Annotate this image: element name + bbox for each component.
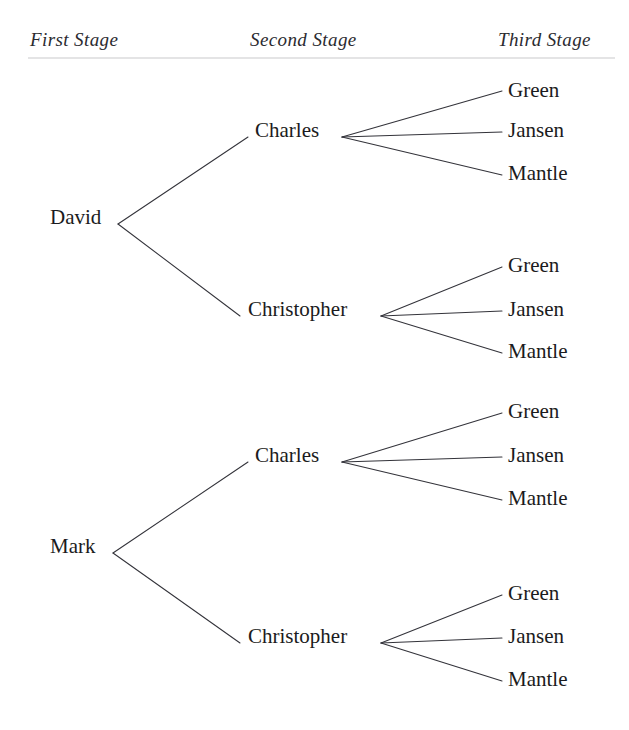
second-stage-node-charles-3: Charles [255,443,319,467]
branch-line [381,595,502,643]
first-stage-nodes: DavidMark [50,205,102,558]
branch-line [381,316,502,353]
stage-header-1: First Stage [29,29,118,50]
branch-line [342,91,502,137]
third-stage-node-green-1: Green [508,78,560,102]
third-stage-node-green-4: Green [508,253,560,277]
branch-line [381,643,502,681]
branch-line [381,638,502,643]
tree-diagram-canvas: First StageSecond StageThird Stage David… [0,0,629,730]
third-stage-node-mantle-6: Mantle [508,339,567,363]
branch-line [118,224,240,316]
third-stage-node-mantle-9: Mantle [508,486,567,510]
branch-line [342,132,502,137]
second-stage-node-christopher-4: Christopher [248,624,347,648]
branch-line [113,553,240,643]
branch-line [381,311,502,316]
third-stage-node-green-7: Green [508,399,560,423]
stage-header-2: Second Stage [250,29,357,50]
stage-headers: First StageSecond StageThird Stage [29,29,591,50]
branch-line [342,457,502,462]
branch-line [381,267,502,316]
second-stage-nodes: CharlesChristopherCharlesChristopher [248,118,347,648]
third-stage-node-green-10: Green [508,581,560,605]
branch-line [342,413,502,462]
second-stage-node-charles-1: Charles [255,118,319,142]
stage-header-3: Third Stage [498,29,591,50]
third-stage-node-mantle-3: Mantle [508,161,567,185]
first-stage-node-mark-2: Mark [50,534,96,558]
third-stage-node-jansen-5: Jansen [508,297,564,321]
second-stage-node-christopher-2: Christopher [248,297,347,321]
tree-diagram: First StageSecond StageThird Stage David… [0,0,629,730]
third-stage-node-mantle-12: Mantle [508,667,567,691]
branch-line [113,462,248,553]
branch-line [342,462,502,500]
third-stage-node-jansen-11: Jansen [508,624,564,648]
first-stage-node-david-1: David [50,205,102,229]
third-stage-node-jansen-8: Jansen [508,443,564,467]
third-stage-node-jansen-2: Jansen [508,118,564,142]
branch-line [342,137,502,175]
branch-lines [113,91,502,681]
third-stage-nodes: GreenJansenMantleGreenJansenMantleGreenJ… [508,78,567,691]
branch-line [118,137,248,224]
